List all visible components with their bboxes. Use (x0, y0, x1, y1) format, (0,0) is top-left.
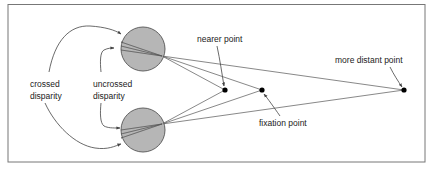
bottom-eye (121, 108, 165, 152)
ray-bot-to-fix (162, 90, 262, 124)
more-distant-point-label: more distant point (335, 55, 403, 65)
more-distant-point-pointer (390, 67, 402, 87)
more-distant-point-dot (401, 87, 406, 92)
top-eye (121, 27, 165, 71)
uncrossed-arrow-top (100, 48, 114, 72)
fixation-point-label: fixation point (259, 118, 307, 128)
crossed-disparity-label-1: crossed (30, 79, 60, 89)
ray-top-to-fix (162, 56, 262, 90)
nearer-point-pointer (217, 46, 224, 86)
ray-top-to-near (162, 56, 225, 90)
binocular-disparity-diagram: crossed disparity uncrossed disparity ne… (0, 0, 432, 179)
crossed-arrow-top (49, 26, 121, 72)
crossed-arrow-bottom (45, 103, 121, 149)
fixation-point-pointer (264, 94, 280, 116)
nearer-point-label: nearer point (197, 34, 243, 44)
uncrossed-disparity-label-2: disparity (93, 91, 125, 101)
fixation-point-dot (259, 87, 264, 92)
crossed-disparity-label-2: disparity (30, 91, 62, 101)
uncrossed-arrow-bottom (100, 103, 120, 128)
figure-frame (8, 5, 425, 163)
uncrossed-disparity-label-1: uncrossed (93, 79, 132, 89)
nearer-point-dot (222, 87, 227, 92)
ray-bot-to-near (162, 90, 225, 124)
